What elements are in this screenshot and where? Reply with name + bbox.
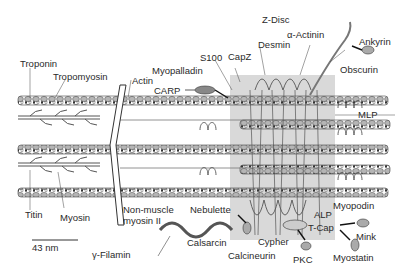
label-cypher: Cypher	[258, 237, 289, 247]
label-mink: Mink	[356, 232, 376, 242]
label-mlp: MLP	[358, 110, 378, 120]
thick-filaments	[18, 110, 100, 172]
label-calcineurin: Calcineurin	[228, 251, 276, 261]
label-myosin: Myosin	[60, 213, 90, 223]
t-cap-shape	[283, 220, 307, 230]
label-s100: S100	[200, 53, 222, 63]
gamma-filamin-shape	[160, 223, 232, 237]
pkc-shape	[301, 242, 311, 250]
mink-arrow-icon	[340, 223, 355, 225]
label-ankyrin: Ankyrin	[359, 37, 391, 47]
label-pkc: PKC	[293, 255, 313, 265]
label-myosin-ii: myosin II	[123, 216, 161, 226]
label-myopodin: Myopodin	[333, 201, 374, 211]
calcineurin-shape	[243, 222, 251, 234]
label-myopalladin: Myopalladin	[152, 66, 203, 76]
label-desmin: Desmin	[258, 40, 290, 50]
label-titin: Titin	[25, 210, 43, 220]
carp-shape	[195, 86, 215, 94]
label-gamma-filamin: γ-Filamin	[92, 250, 131, 260]
label-alpha-actinin: α-Actinin	[287, 30, 324, 40]
label-carp: CARP	[154, 86, 180, 96]
label-scale: 43 nm	[32, 243, 58, 253]
label-actin: Actin	[132, 76, 153, 86]
ankyrin-shape	[362, 46, 374, 54]
label-capz: CapZ	[228, 52, 251, 62]
label-myostatin: Myostatin	[333, 253, 374, 263]
label-non-muscle: Non-muscle	[123, 205, 174, 215]
mink-shape	[357, 219, 369, 227]
label-alp: ALP	[314, 210, 332, 220]
label-z-disc: Z-Disc	[262, 15, 289, 25]
myostatin-arrow-icon	[340, 230, 350, 240]
label-troponin: Troponin	[20, 59, 57, 69]
label-calsarcin: Calsarcin	[187, 238, 227, 248]
label-obscurin: Obscurin	[340, 65, 378, 75]
label-t-cap: T-Cap	[308, 223, 334, 233]
label-tropomyosin: Tropomyosin	[53, 72, 108, 82]
sarcomere-diagram	[0, 0, 407, 274]
label-nebulette: Nebulette	[190, 205, 231, 215]
